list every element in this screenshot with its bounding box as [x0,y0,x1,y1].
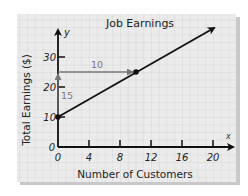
data-point-10-25 [133,69,139,75]
chart-title: Job Earnings [105,17,174,30]
data-point-0-10 [55,114,61,120]
y-tick-30: 30 [43,52,56,63]
x-tick-16: 16 [176,152,189,163]
y-tick-0: 0 [49,142,55,153]
grid [17,14,236,182]
x-tick-0: 0 [55,152,61,163]
y-axis-letter: y [63,27,71,38]
x-tick-12: 12 [145,152,158,163]
x-axis-label: Number of Customers [77,168,192,180]
x-tick-4: 4 [86,152,92,163]
x-tick-20: 20 [207,152,220,163]
x-tick-8: 8 [117,152,123,163]
y-tick-10: 10 [43,112,56,123]
run-label: 10 [91,59,103,70]
x-axis-letter: x [225,132,231,141]
y-tick-20: 20 [43,82,56,93]
y-axis-label: Total Earnings ($) [20,54,32,147]
rise-label: 15 [61,90,73,101]
job-earnings-chart: Job Earnings Total Earnings ($) Number o… [0,0,248,196]
